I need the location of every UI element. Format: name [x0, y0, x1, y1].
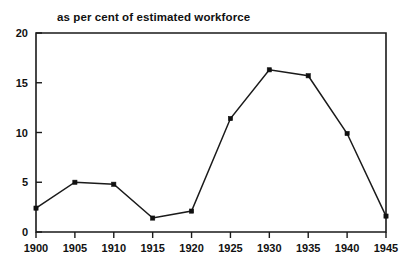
data-series-workforce — [34, 68, 388, 220]
y-axis-ticks — [36, 33, 42, 232]
data-point-1925 — [228, 116, 232, 120]
chart-container: as per cent of estimated workforce 05101… — [0, 0, 408, 270]
x-tick-label-1910: 1910 — [102, 242, 126, 254]
plot-border — [36, 33, 386, 232]
data-point-1900 — [34, 206, 38, 210]
series-markers — [34, 68, 388, 220]
data-point-1905 — [73, 180, 77, 184]
y-tick-label-5: 5 — [22, 176, 28, 188]
y-tick-label-15: 15 — [16, 77, 28, 89]
line-chart-plot: 05101520 1900190519101915192019251930193… — [0, 0, 408, 270]
x-tick-label-1925: 1925 — [218, 242, 242, 254]
series-line — [36, 70, 386, 218]
data-point-1920 — [189, 209, 193, 213]
data-point-1945 — [384, 214, 388, 218]
plot-frame — [36, 33, 386, 232]
data-point-1910 — [112, 182, 116, 186]
data-point-1935 — [306, 74, 310, 78]
x-tick-label-1905: 1905 — [63, 242, 87, 254]
y-tick-label-10: 10 — [16, 127, 28, 139]
data-point-1940 — [345, 131, 349, 135]
data-point-1915 — [151, 216, 155, 220]
y-tick-label-20: 20 — [16, 27, 28, 39]
data-point-1930 — [267, 68, 271, 72]
x-tick-label-1945: 1945 — [374, 242, 398, 254]
x-tick-label-1915: 1915 — [140, 242, 164, 254]
x-tick-label-1935: 1935 — [296, 242, 320, 254]
x-tick-label-1900: 1900 — [24, 242, 48, 254]
x-tick-label-1930: 1930 — [257, 242, 281, 254]
x-axis-ticks — [36, 232, 386, 238]
x-tick-label-1920: 1920 — [179, 242, 203, 254]
x-axis-tick-labels: 1900190519101915192019251930193519401945 — [24, 242, 398, 254]
x-tick-label-1940: 1940 — [335, 242, 359, 254]
y-axis-tick-labels: 05101520 — [16, 27, 28, 238]
y-tick-label-0: 0 — [22, 226, 28, 238]
